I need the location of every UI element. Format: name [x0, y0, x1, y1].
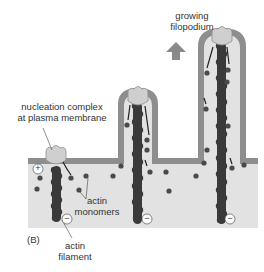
growing-filopodium-label: growing filopodium	[152, 10, 232, 32]
actin-monomers-line2: monomers	[72, 206, 122, 217]
growing-filopodium-line1: growing	[152, 10, 232, 21]
nucleation-complex-1	[46, 146, 66, 165]
actin-filament-label: actin filament	[55, 240, 95, 262]
growth-arrow-icon	[166, 42, 186, 60]
filopodium-diagram: + − − − growing filopodium nucleation co…	[0, 0, 264, 272]
actin-filament-line1: actin	[55, 240, 95, 251]
actin-monomers-line1: actin	[72, 195, 122, 206]
diagram-canvas	[0, 0, 264, 272]
nucleation-line1: nucleation complex	[12, 101, 112, 112]
minus-sign-3: −	[225, 213, 235, 224]
actin-filament-short	[51, 166, 62, 222]
actin-filament-line2: filament	[55, 251, 95, 262]
minus-sign-2: −	[142, 213, 152, 224]
panel-label: (B)	[27, 234, 40, 245]
nucleation-complex-2	[128, 87, 148, 106]
actin-monomers-label: actin monomers	[72, 195, 122, 217]
actin-filament-medium	[132, 102, 143, 224]
minus-sign-1: −	[62, 213, 72, 224]
plus-sign: +	[33, 163, 43, 174]
growing-filopodium-line2: filopodium	[152, 21, 232, 32]
nucleation-complex-label: nucleation complex at plasma membrane	[12, 101, 112, 123]
actin-filament-long	[216, 42, 227, 224]
nucleation-line2: at plasma membrane	[12, 112, 112, 123]
